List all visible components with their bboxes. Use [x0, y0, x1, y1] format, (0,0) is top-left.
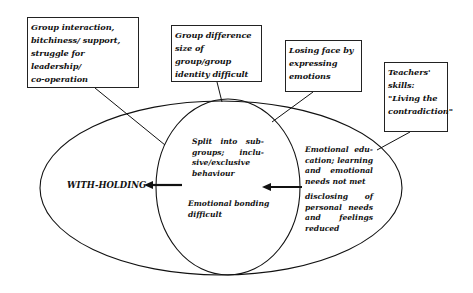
- box-line: Group interaction,: [31, 21, 136, 34]
- inner-top-text: Split into sub-groups; inclu-sive/exclus…: [192, 137, 264, 179]
- box-line: identity difficult: [175, 68, 259, 81]
- connector-losing-face: [272, 92, 313, 122]
- box-teachers-skills: Teachers' skills: "Living the contradict…: [384, 62, 448, 132]
- right-top-text: Emotional edu-cation; learning and emoti…: [305, 145, 373, 187]
- box-line: contradiction": [388, 105, 445, 118]
- box-line: Teachers': [388, 66, 445, 79]
- box-line: bitchiness/ support,: [31, 34, 136, 47]
- withholding-label: WITH-HOLDING: [67, 180, 146, 190]
- right-bottom-text: disclosing of personal needs and feeling…: [305, 192, 373, 234]
- box-line: expressing: [289, 57, 359, 70]
- box-line: size of group/group: [175, 42, 259, 68]
- inner-bottom-text: Emotional bonding difficult: [188, 199, 272, 220]
- box-group-difference: Group difference size of group/group ide…: [171, 25, 262, 82]
- connector-group-interaction: [95, 88, 165, 145]
- connector-teachers-skills: [377, 132, 410, 150]
- box-group-interaction: Group interaction, bitchiness/ support, …: [27, 17, 139, 88]
- box-line: struggle for leadership/: [31, 47, 136, 73]
- box-line: skills:: [388, 79, 445, 92]
- box-line: Group difference: [175, 29, 259, 42]
- box-line: Losing face by: [289, 44, 359, 57]
- box-line: emotions: [289, 70, 359, 83]
- arrowhead-inner: [262, 183, 271, 191]
- box-line: co-operation: [31, 73, 136, 86]
- box-line: "Living the: [388, 92, 445, 105]
- box-losing-face: Losing face by expressing emotions: [285, 40, 362, 92]
